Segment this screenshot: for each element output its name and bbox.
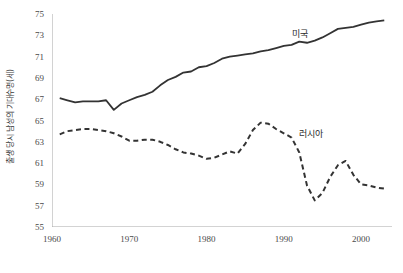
- y-axis-tick-label: 73: [35, 30, 44, 40]
- series-label-russia: 러시아: [299, 127, 323, 140]
- plot-area: 미국 러시아: [52, 14, 392, 227]
- y-axis-tick-label: 71: [35, 52, 44, 62]
- plot-svg: [52, 14, 392, 227]
- y-axis-tick-label: 65: [35, 116, 44, 126]
- data-series-line: [60, 20, 385, 109]
- data-series-layer: [60, 20, 385, 200]
- y-axis-tick-label: 63: [35, 137, 44, 147]
- x-axis-tick-labels: 19601970198019902000: [0, 232, 403, 252]
- y-axis-tick-label: 61: [35, 158, 44, 168]
- life-expectancy-line-chart: 출생 당시 남성의 기대수명(세) 5557596163656769717375…: [0, 0, 403, 273]
- y-axis-title: 출생 당시 남성의 기대수명(세): [0, 0, 18, 232]
- series-label-usa: 미국: [292, 27, 308, 40]
- x-axis-tick-label: 1970: [120, 234, 138, 244]
- y-axis-tick-label: 55: [35, 222, 44, 232]
- y-axis-tick-label: 75: [35, 9, 44, 19]
- y-axis-tick-label: 67: [35, 94, 44, 104]
- y-axis-tick-labels: 5557596163656769717375: [18, 0, 48, 232]
- x-axis-tick-label: 1990: [275, 234, 293, 244]
- x-axis-tick-label: 2000: [352, 234, 370, 244]
- y-axis-tick-label: 69: [35, 73, 44, 83]
- x-axis-tick-label: 1980: [198, 234, 216, 244]
- data-series-line: [60, 123, 385, 201]
- y-axis-tick-label: 59: [35, 179, 44, 189]
- y-axis-tick-label: 57: [35, 201, 44, 211]
- axis-lines: [52, 14, 392, 227]
- x-axis-tick-label: 1960: [43, 234, 61, 244]
- y-axis-title-text: 출생 당시 남성의 기대수명(세): [4, 69, 15, 163]
